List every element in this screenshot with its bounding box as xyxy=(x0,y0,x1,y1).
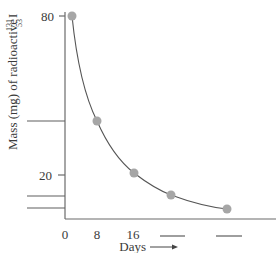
y-tick-label-20: 20 xyxy=(39,168,52,183)
data-point-day-24 xyxy=(167,191,176,200)
isotope-mass-number: 131 xyxy=(5,19,14,31)
svg-text:Mass (mg) of radioactive: Mass (mg) of radioactive xyxy=(5,19,20,150)
x-tick-label-8: 8 xyxy=(94,227,101,242)
data-point-day-8 xyxy=(93,117,102,126)
decay-chart: 80 20 0 8 16 Days Mass (mg) of radioacti… xyxy=(0,0,280,253)
decay-curve xyxy=(72,16,227,209)
data-point-day-32 xyxy=(223,205,232,214)
data-point-day-0 xyxy=(68,12,77,21)
right-arrow-icon xyxy=(150,245,178,250)
y-tick-label-80: 80 xyxy=(41,9,54,24)
isotope-symbol: I xyxy=(5,14,20,18)
isotope-atomic-number: 53 xyxy=(15,19,24,27)
data-point-day-16 xyxy=(130,169,139,178)
x-tick-label-0: 0 xyxy=(62,227,69,242)
y-axis-label: Mass (mg) of radioactive xyxy=(5,19,20,150)
x-axis-label: Days xyxy=(119,239,146,253)
